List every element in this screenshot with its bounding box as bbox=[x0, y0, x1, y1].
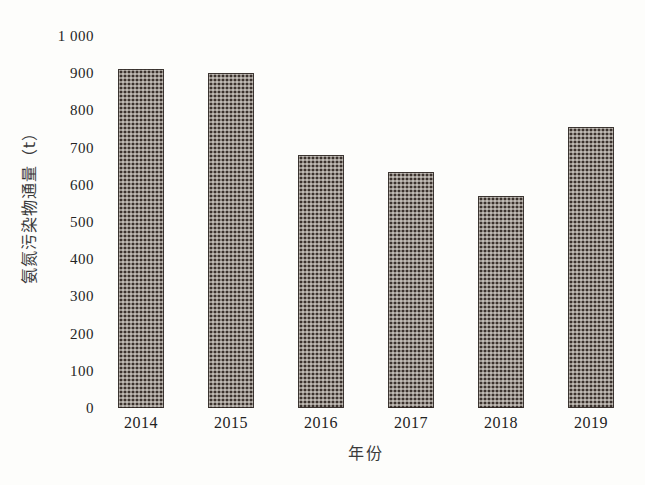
bar-slot bbox=[186, 36, 276, 408]
y-axis-tick-label: 500 bbox=[36, 215, 94, 230]
x-axis-tick-label: 2014 bbox=[124, 414, 158, 432]
y-axis-tick-label: 800 bbox=[36, 103, 94, 118]
y-axis-tick-label: 0 bbox=[36, 401, 94, 416]
bar-slot bbox=[366, 36, 456, 408]
x-axis-tick-labels: 201420152016201720182019 bbox=[96, 414, 636, 440]
bar-slot bbox=[276, 36, 366, 408]
y-axis-tick-label: 1 000 bbox=[36, 29, 94, 44]
y-axis-tick-label: 900 bbox=[36, 66, 94, 81]
x-axis-tick-label: 2016 bbox=[304, 414, 338, 432]
x-axis-tick-label: 2018 bbox=[484, 414, 518, 432]
x-axis-tick-label: 2017 bbox=[394, 414, 428, 432]
bar bbox=[568, 127, 614, 408]
y-axis-tick-label: 700 bbox=[36, 140, 94, 155]
plot-area bbox=[96, 36, 636, 408]
bar bbox=[388, 172, 434, 408]
y-axis-tick-label: 300 bbox=[36, 289, 94, 304]
x-axis-tick-label: 2015 bbox=[214, 414, 248, 432]
bar-chart: 氨氮污染物通量（t） 01002003004005006007008009001… bbox=[0, 0, 645, 485]
y-axis-tick-label: 200 bbox=[36, 326, 94, 341]
x-axis-tick-label: 2019 bbox=[574, 414, 608, 432]
x-axis-title: 年份 bbox=[96, 440, 636, 464]
y-axis-tick-label: 400 bbox=[36, 252, 94, 267]
bar bbox=[298, 155, 344, 408]
y-axis-tick-labels: 01002003004005006007008009001 000 bbox=[36, 0, 94, 485]
bar bbox=[478, 196, 524, 408]
y-axis-tick-label: 100 bbox=[36, 363, 94, 378]
y-axis-tick-label: 600 bbox=[36, 177, 94, 192]
bar-slot bbox=[96, 36, 186, 408]
bar bbox=[118, 69, 164, 408]
bar bbox=[208, 73, 254, 408]
bar-slot bbox=[456, 36, 546, 408]
bar-slot bbox=[546, 36, 636, 408]
